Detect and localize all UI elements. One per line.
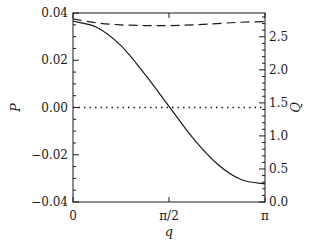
y-left-tick-label: 0.04 <box>41 6 68 20</box>
y-left-tick-label: 0.00 <box>41 101 68 115</box>
y-axis-left-label: P <box>8 103 23 113</box>
y-right-tick-label: 1.5 <box>269 96 288 110</box>
y-left-tick-label: −0.02 <box>31 148 68 162</box>
x-tick-label: 0 <box>69 209 77 223</box>
y-right-tick-label: 0.5 <box>269 162 288 176</box>
x-tick-label: π <box>261 209 269 223</box>
y-right-tick-label: 1.0 <box>269 129 288 143</box>
tick-labels: 0π/2π0.040.020.00−0.02−0.042.52.01.51.00… <box>31 6 288 223</box>
y-left-tick-label: −0.04 <box>31 195 68 209</box>
y-axis-right-label: Q <box>288 102 303 113</box>
chart: 0π/2π0.040.020.00−0.02−0.042.52.01.51.00… <box>0 0 313 250</box>
series-q-line <box>73 19 265 26</box>
series-p-line <box>73 21 265 184</box>
y-right-tick-label: 0.0 <box>269 195 288 209</box>
y-left-tick-label: 0.02 <box>41 53 68 67</box>
y-right-tick-label: 2.5 <box>269 30 288 44</box>
plot-marks <box>73 19 265 184</box>
x-tick-label: π/2 <box>159 209 179 223</box>
y-right-tick-label: 2.0 <box>269 63 288 77</box>
x-axis-label: q <box>165 224 173 239</box>
